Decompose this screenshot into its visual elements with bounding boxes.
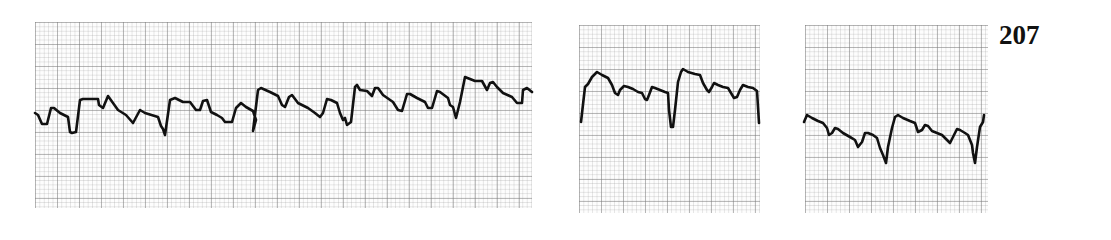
figure-number: 207 bbox=[999, 20, 1040, 51]
ecg-strip-1 bbox=[35, 22, 532, 208]
ecg-strip-3 bbox=[805, 25, 988, 213]
ecg-strip-2 bbox=[579, 25, 760, 213]
